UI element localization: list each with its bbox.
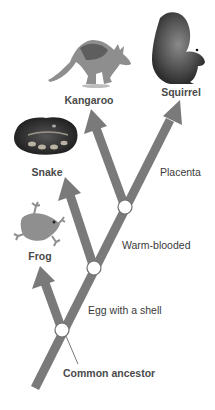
snake-branch [58, 177, 94, 268]
cladogram-diagram: Kangaroo Squirrel Snake Frog Placenta Wa… [0, 0, 215, 410]
squirrel-label: Squirrel [161, 87, 201, 98]
frog-label: Frog [28, 251, 51, 262]
kangaroo-label: Kangaroo [64, 95, 113, 106]
snake-label: Snake [32, 167, 63, 178]
node-placenta-icon [118, 200, 132, 214]
node-egg-shell-icon [55, 323, 69, 337]
frog-branch [32, 266, 62, 330]
common-ancestor-label: Common ancestor [63, 368, 155, 379]
common-ancestor-leader-line [66, 336, 78, 364]
cladogram-branches [0, 0, 215, 410]
squirrel-image [152, 12, 205, 84]
frog-image [14, 202, 65, 246]
placenta-trait-label: Placenta [160, 167, 201, 178]
warm-blooded-trait-label: Warm-blooded [122, 240, 190, 251]
snake-image [14, 117, 78, 154]
kangaroo-branch [84, 109, 125, 207]
node-warm-blooded-icon [87, 261, 101, 275]
kangaroo-image [48, 40, 131, 88]
egg-shell-trait-label: Egg with a shell [88, 305, 162, 316]
